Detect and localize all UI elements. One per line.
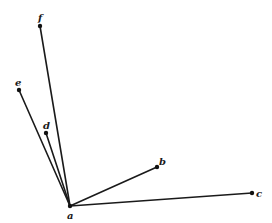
edge-a-e [19, 90, 70, 206]
node-label-f: f [37, 12, 44, 23]
node-dot-f [38, 24, 42, 28]
node-c: c [250, 188, 262, 199]
edge-a-d [46, 133, 70, 206]
node-dot-d [44, 131, 48, 135]
node-label-e: e [15, 77, 21, 88]
node-label-c: c [256, 188, 262, 199]
node-label-b: b [159, 156, 166, 167]
star-graph-diagram: abcdef [0, 0, 272, 223]
node-dot-e [17, 88, 21, 92]
node-e: e [15, 77, 21, 92]
nodes-group: abcdef [15, 12, 262, 221]
edge-a-f [40, 26, 70, 206]
node-b: b [155, 156, 166, 169]
node-f: f [37, 12, 44, 28]
node-dot-a [68, 204, 72, 208]
node-d: d [43, 120, 50, 135]
node-label-d: d [43, 120, 50, 131]
edge-a-c [70, 193, 252, 206]
edges-group [19, 26, 252, 206]
node-label-a: a [67, 210, 73, 221]
node-dot-c [250, 191, 254, 195]
